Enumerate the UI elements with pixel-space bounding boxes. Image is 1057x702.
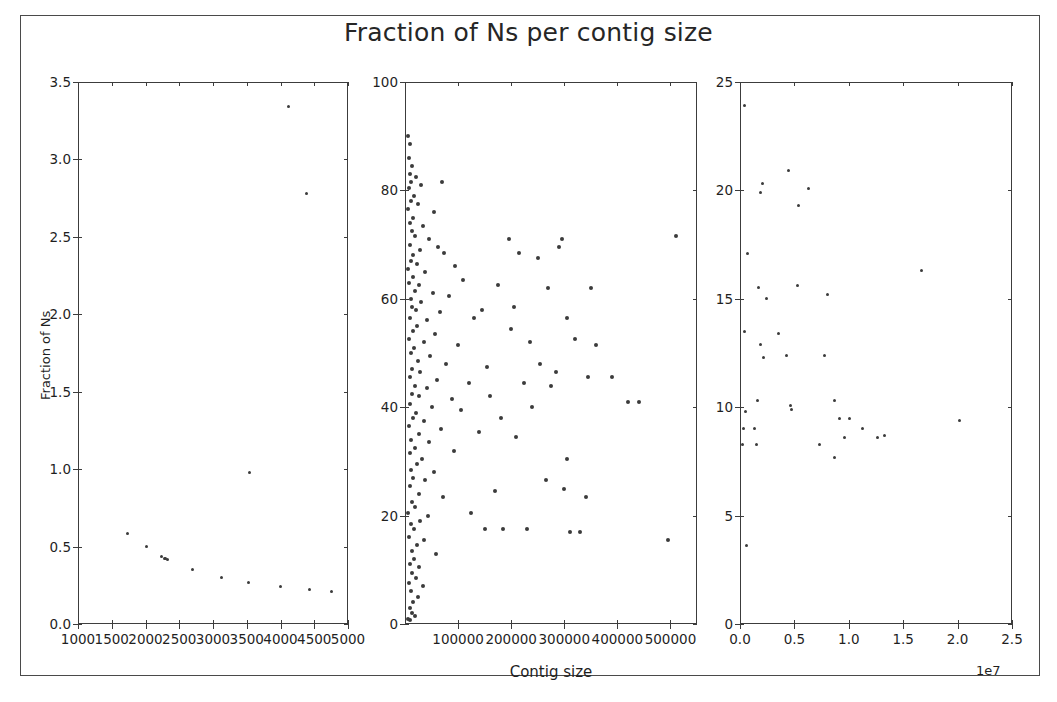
scatter-point [546, 286, 550, 290]
scatter-point [407, 581, 411, 585]
scatter-point [279, 585, 282, 588]
x-tick-mark-inner [348, 620, 349, 624]
x-tick-label: 200000 [485, 631, 537, 647]
scatter-point [415, 324, 419, 328]
y-tick-mark-inner [78, 469, 82, 470]
scatter-point [408, 172, 412, 176]
scatter-point [422, 340, 426, 344]
x-tick-mark [458, 624, 459, 629]
x-tick-mark-top [617, 82, 618, 86]
scatter-point [480, 308, 484, 312]
x-tick-mark-top [179, 82, 180, 86]
scatter-point [409, 589, 413, 593]
y-tick-mark-inner [78, 547, 82, 548]
scatter-point [743, 104, 746, 107]
scatter-point [247, 581, 250, 584]
scatter-dense-band [78, 623, 272, 625]
x-tick-mark-top [1012, 82, 1013, 86]
y-tick-mark-right [693, 82, 697, 83]
scatter-point [409, 351, 413, 355]
scatter-point [406, 134, 410, 138]
scatter-point [432, 210, 436, 214]
x-tick-mark [281, 624, 282, 629]
scatter-point [425, 386, 429, 390]
scatter-point [589, 286, 593, 290]
scatter-point [415, 462, 419, 466]
y-tick-mark-inner [405, 624, 409, 625]
x-tick-mark-inner [849, 620, 850, 624]
x-tick-mark-top [903, 82, 904, 86]
scatter-dense-band [317, 623, 333, 625]
x-tick-mark-inner [617, 620, 618, 624]
scatter-point [410, 367, 414, 371]
scatter-point [422, 538, 426, 542]
y-tick-mark-right [693, 190, 697, 191]
y-tick-label: 60 [381, 291, 398, 307]
scatter-point [450, 397, 454, 401]
y-tick-label: 3.0 [50, 151, 71, 167]
scatter-point [407, 186, 411, 190]
x-tick-mark-top [78, 82, 79, 86]
x-tick-mark-inner [112, 620, 113, 624]
x-tick-mark-inner [78, 620, 79, 624]
scatter-point [417, 565, 421, 569]
scatter-point [744, 410, 747, 413]
scatter-point [287, 105, 290, 108]
scatter-point [409, 180, 413, 184]
scatter-point [818, 443, 821, 446]
scatter-point [637, 400, 641, 404]
x-tick-mark [247, 624, 248, 629]
scatter-point [421, 224, 425, 228]
x-tick-mark [903, 624, 904, 629]
scatter-point [308, 588, 311, 591]
x-tick-label: 0.5 [784, 631, 805, 647]
scatter-point [441, 495, 445, 499]
scatter-point [674, 234, 678, 238]
x-tick-mark [740, 624, 741, 629]
y-tick-label: 25 [716, 74, 733, 90]
scatter-point [419, 300, 423, 304]
scatter-point [414, 175, 418, 179]
scatter-point [787, 169, 790, 172]
scatter-point [417, 283, 421, 287]
scatter-point [418, 248, 422, 252]
y-tick-label: 15 [716, 291, 733, 307]
scatter-point [453, 264, 457, 268]
scatter-point [411, 600, 415, 604]
scatter-point [414, 308, 418, 312]
x-tick-label: 500000 [645, 631, 697, 647]
scatter-point [434, 552, 438, 556]
scatter-point [126, 532, 129, 535]
scatter-point [414, 576, 418, 580]
x-tick-mark [78, 624, 79, 629]
y-tick-mark-right [344, 237, 348, 238]
y-tick-mark-inner [740, 516, 744, 517]
scatter-point [920, 269, 923, 272]
x-tick-label: 1500 [95, 631, 129, 647]
x-tick-mark [849, 624, 850, 629]
y-tick-mark-inner [740, 190, 744, 191]
scatter-point [411, 329, 415, 333]
scatter-point [493, 489, 497, 493]
y-tick-label: 80 [381, 182, 398, 198]
scatter-point [409, 297, 413, 301]
y-tick-mark-inner [78, 159, 82, 160]
scatter-point [538, 362, 542, 366]
x-tick-mark [564, 624, 565, 629]
y-tick-label: 3.5 [50, 74, 71, 90]
scatter-point [759, 191, 762, 194]
x-tick-mark-top [281, 82, 282, 86]
x-tick-mark-top [314, 82, 315, 86]
scatter-point [447, 294, 451, 298]
x-tick-mark-top [213, 82, 214, 86]
scatter-point [412, 346, 416, 350]
scatter-point [330, 590, 333, 593]
y-tick-mark-inner [405, 407, 409, 408]
scatter-point [507, 237, 511, 241]
scatter-dense-band [278, 623, 312, 625]
scatter-point [745, 544, 748, 547]
scatter-point [833, 399, 836, 402]
scatter-point [418, 370, 422, 374]
scatter-point [407, 337, 411, 341]
x-tick-mark [112, 624, 113, 629]
